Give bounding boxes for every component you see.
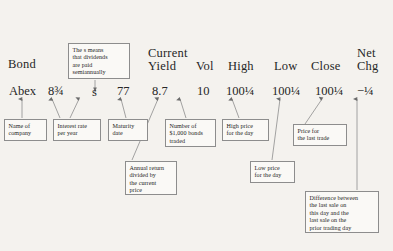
value-high: 100¼ xyxy=(226,85,254,98)
value-vol: 10 xyxy=(197,85,210,98)
callout-high-price: High price for the day xyxy=(222,119,269,141)
callout-bonds-traded: Number of $1,000 bonds traded xyxy=(165,119,216,147)
header-current-yield: Current Yield xyxy=(148,47,188,73)
callout-maturity-date: Maturity date xyxy=(108,119,148,141)
value-maturity-mark: s xyxy=(92,86,97,99)
value-close: 100¼ xyxy=(315,85,343,98)
header-close: Close xyxy=(311,60,340,73)
value-bond-name: Abex xyxy=(9,85,36,98)
callout-interest-rate: Interest rate per year xyxy=(53,119,101,141)
value-current-yield: 8.7 xyxy=(152,85,168,98)
bond-quotation-diagram: Bond Current Yield Vol High Low Close Ne… xyxy=(0,0,393,251)
header-vol: Vol xyxy=(196,60,214,73)
callout-semiannual-note: The s means that dividends are paid semi… xyxy=(68,43,130,79)
value-low: 100¼ xyxy=(272,85,300,98)
callout-last-trade-price: Price for the last trade xyxy=(293,124,347,146)
value-price: 77 xyxy=(117,85,130,98)
header-high: High xyxy=(228,60,254,73)
value-net-chg: −¼ xyxy=(357,85,373,98)
header-net-chg: Net Chg xyxy=(357,47,378,73)
callout-low-price: Low price for the day xyxy=(250,161,295,183)
header-low: Low xyxy=(274,60,298,73)
callout-name-of-company: Name of company xyxy=(4,119,47,141)
header-bond: Bond xyxy=(8,58,36,71)
callout-net-change-note: Difference between the last sale on this… xyxy=(305,191,379,233)
value-coupon-rate: 8¾ xyxy=(48,85,64,98)
callout-annual-return: Annual return divided by the current pri… xyxy=(125,161,177,195)
